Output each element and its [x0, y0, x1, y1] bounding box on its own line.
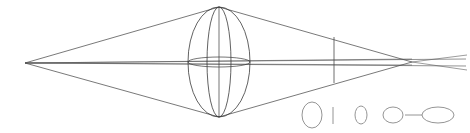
ray-diagram — [0, 0, 470, 133]
figure-root — [0, 0, 470, 133]
